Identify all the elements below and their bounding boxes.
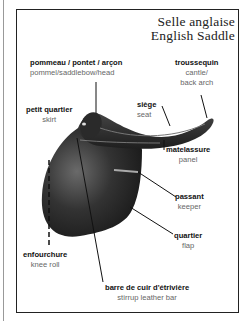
label-seat: siège seat [137,100,156,120]
label-stirrup-bar: barre de cuir d'étrivière stirrup leathe… [105,283,189,303]
label-skirt: petit quartier skirt [26,105,72,125]
label-kneeroll: enfourchure knee roll [23,250,67,270]
label-pommel: pommeau / pontet / arçon pommel/saddlebo… [30,58,122,78]
label-panel: matelassure panel [166,145,210,165]
label-cantle: troussequin cantle/ back arch [175,58,218,88]
label-keeper: passant keeper [175,192,204,212]
label-flap: quartier flap [174,231,202,251]
